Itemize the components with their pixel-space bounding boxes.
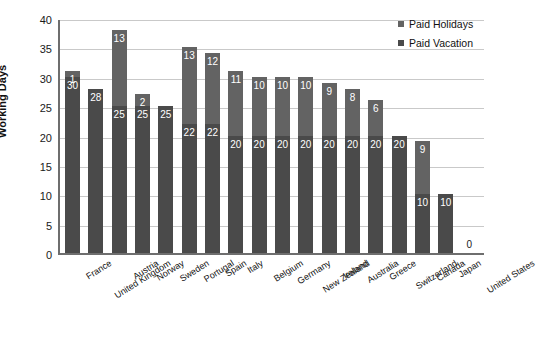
bar-segment-paid-vacation[interactable]: 20 xyxy=(298,136,313,254)
bar-segment-paid-vacation[interactable]: 20 xyxy=(228,136,243,254)
bar-segment-value-label: 25 xyxy=(135,109,150,120)
bar-segment-value-label: 10 xyxy=(252,80,267,91)
bar-segment-paid-holidays[interactable]: 10 xyxy=(252,77,267,136)
bar-segment-paid-vacation[interactable]: 22 xyxy=(205,124,220,253)
bar-segment-value-label: 20 xyxy=(345,139,360,150)
bar-segment-paid-holidays[interactable]: 13 xyxy=(112,30,127,106)
bar-segment-paid-vacation[interactable]: 25 xyxy=(158,106,173,253)
x-axis-category-label: United States xyxy=(485,258,536,295)
bar-segment-paid-vacation[interactable]: 20 xyxy=(275,136,290,254)
zero-value-label: 0 xyxy=(462,239,477,250)
x-axis-category-label: France xyxy=(84,258,113,281)
legend-label: Paid Vacation xyxy=(409,37,473,49)
bar-segment-paid-vacation[interactable]: 25 xyxy=(135,106,150,253)
bar-segment-value-label: 2 xyxy=(135,97,150,108)
bar-segment-value-label: 1 xyxy=(65,74,80,85)
bar-segment-paid-vacation[interactable]: 20 xyxy=(345,136,360,254)
legend-item[interactable]: Paid Vacation xyxy=(398,37,473,49)
y-axis-title: Working Days xyxy=(0,65,8,138)
bar-segment-paid-holidays[interactable]: 8 xyxy=(345,89,360,136)
bar-segment-paid-holidays[interactable]: 6 xyxy=(368,100,383,135)
bar-segment-paid-vacation[interactable]: 20 xyxy=(392,136,407,254)
bar-segment-value-label: 10 xyxy=(438,197,453,208)
bar-segment-value-label: 22 xyxy=(205,127,220,138)
y-axis-tick-label: 0 xyxy=(26,249,52,261)
y-axis-tick-label: 30 xyxy=(26,73,52,85)
bar-segment-value-label: 9 xyxy=(322,86,337,97)
bar-segment-value-label: 8 xyxy=(345,92,360,103)
bar-segment-paid-holidays[interactable]: 9 xyxy=(415,141,430,194)
bar-segment-paid-vacation[interactable]: 10 xyxy=(415,194,430,253)
y-axis-tick-label: 5 xyxy=(26,220,52,232)
legend-item[interactable]: Paid Holidays xyxy=(398,18,473,30)
bar-segment-paid-vacation[interactable]: 25 xyxy=(112,106,127,253)
bar-segment-paid-holidays[interactable]: 13 xyxy=(182,47,197,123)
bar-segment-paid-holidays[interactable]: 10 xyxy=(275,77,290,136)
legend-swatch-icon xyxy=(398,21,404,27)
legend-swatch-icon xyxy=(398,40,404,46)
bar-segment-paid-vacation[interactable]: 20 xyxy=(368,136,383,254)
bar-segment-value-label: 6 xyxy=(368,103,383,114)
bar-segment-value-label: 20 xyxy=(322,139,337,150)
bar-segment-paid-holidays[interactable]: 2 xyxy=(135,94,150,106)
bar-segment-value-label: 12 xyxy=(205,56,220,67)
bar-segment-value-label: 22 xyxy=(182,127,197,138)
bar-segment-value-label: 13 xyxy=(182,50,197,61)
bar-segment-value-label: 20 xyxy=(252,139,267,150)
bar-segment-value-label: 25 xyxy=(158,109,173,120)
bar-segment-paid-holidays[interactable]: 9 xyxy=(322,83,337,136)
bar-segment-value-label: 20 xyxy=(368,139,383,150)
bar-segment-paid-holidays[interactable]: 1 xyxy=(65,71,80,77)
bar-segment-value-label: 13 xyxy=(112,33,127,44)
bar-segment-paid-vacation[interactable]: 30 xyxy=(65,77,80,253)
bar-segment-paid-holidays[interactable]: 10 xyxy=(298,77,313,136)
bar-segment-value-label: 20 xyxy=(392,139,407,150)
bar-segment-value-label: 10 xyxy=(415,197,430,208)
bar-segment-paid-vacation[interactable]: 10 xyxy=(438,194,453,253)
y-axis-tick-label: 10 xyxy=(26,190,52,202)
bar-segment-value-label: 20 xyxy=(275,139,290,150)
bar-segment-paid-holidays[interactable]: 12 xyxy=(205,53,220,124)
bar-segment-value-label: 9 xyxy=(415,144,430,155)
bar-segment-value-label: 25 xyxy=(112,109,127,120)
bar-segment-paid-holidays[interactable]: 11 xyxy=(228,71,243,136)
legend-label: Paid Holidays xyxy=(409,18,473,30)
bar-segment-value-label: 20 xyxy=(228,139,243,150)
bar-segment-paid-vacation[interactable]: 20 xyxy=(252,136,267,254)
bar-segment-value-label: 20 xyxy=(298,139,313,150)
chart-legend: Paid HolidaysPaid Vacation xyxy=(398,18,473,56)
bar-segment-paid-vacation[interactable]: 20 xyxy=(322,136,337,254)
bar-segment-value-label: 11 xyxy=(228,74,243,85)
bar-segment-paid-vacation[interactable]: 22 xyxy=(182,124,197,253)
bar-segment-value-label: 10 xyxy=(275,80,290,91)
y-axis-tick-label: 25 xyxy=(26,102,52,114)
y-axis-tick-label: 40 xyxy=(26,14,52,26)
x-axis-category-label: Italy xyxy=(246,258,265,275)
bar-segment-paid-vacation[interactable]: 28 xyxy=(88,89,103,254)
y-axis-tick-label: 20 xyxy=(26,132,52,144)
y-axis-tick-label: 35 xyxy=(26,43,52,55)
bar-segment-value-label: 10 xyxy=(298,80,313,91)
y-axis-tick-label: 15 xyxy=(26,161,52,173)
bar-segment-value-label: 28 xyxy=(88,92,103,103)
